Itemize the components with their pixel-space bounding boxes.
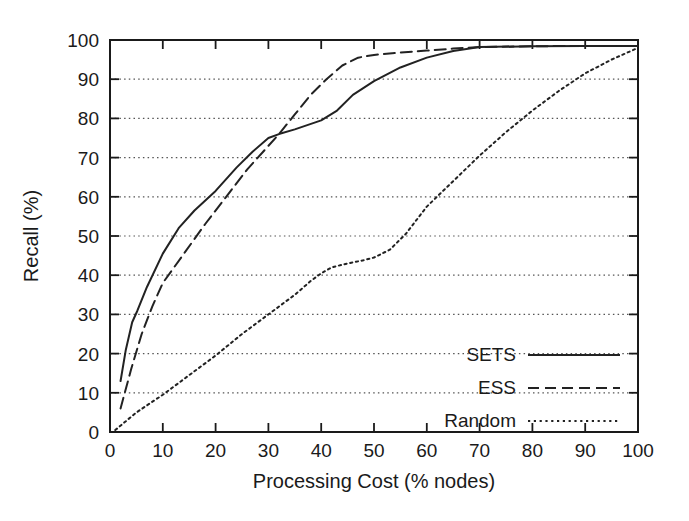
y-axis-title: Recall (%) bbox=[20, 190, 42, 282]
recall-vs-processing-cost-chart: 0102030405060708090100 01020304050607080… bbox=[0, 0, 689, 521]
y-tick-label-20: 20 bbox=[78, 344, 99, 365]
legend-label-sets: SETS bbox=[466, 344, 516, 365]
y-tick-label-90: 90 bbox=[78, 69, 99, 90]
x-tick-label-90: 90 bbox=[575, 440, 596, 461]
x-tick-label-30: 30 bbox=[258, 440, 279, 461]
x-tick-label-20: 20 bbox=[205, 440, 226, 461]
x-axis-title: Processing Cost (% nodes) bbox=[253, 470, 495, 492]
y-tick-label-10: 10 bbox=[78, 383, 99, 404]
chart-figure: 0102030405060708090100 01020304050607080… bbox=[0, 0, 689, 521]
x-tick-label-60: 60 bbox=[416, 440, 437, 461]
y-tick-label-40: 40 bbox=[78, 265, 99, 286]
y-tick-label-0: 0 bbox=[88, 422, 99, 443]
x-tick-label-0: 0 bbox=[105, 440, 116, 461]
x-tick-label-100: 100 bbox=[622, 440, 654, 461]
x-tick-label-80: 80 bbox=[522, 440, 543, 461]
x-tick-label-50: 50 bbox=[363, 440, 384, 461]
y-tick-label-80: 80 bbox=[78, 108, 99, 129]
y-tick-label-60: 60 bbox=[78, 187, 99, 208]
y-tick-label-70: 70 bbox=[78, 148, 99, 169]
y-tick-label-30: 30 bbox=[78, 304, 99, 325]
legend-label-ess: ESS bbox=[478, 377, 516, 398]
legend-label-random: Random bbox=[444, 410, 516, 431]
x-tick-label-10: 10 bbox=[152, 440, 173, 461]
y-tick-label-50: 50 bbox=[78, 226, 99, 247]
x-tick-label-70: 70 bbox=[469, 440, 490, 461]
x-tick-label-40: 40 bbox=[311, 440, 332, 461]
y-tick-label-100: 100 bbox=[67, 30, 99, 51]
